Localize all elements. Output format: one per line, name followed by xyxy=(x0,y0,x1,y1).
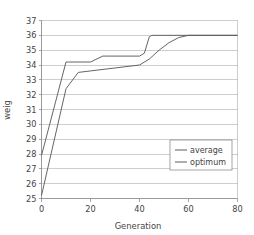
y-tick-label-32: 32 xyxy=(26,90,36,100)
y-tick-label-37: 37 xyxy=(26,16,36,26)
series-line-average xyxy=(42,35,238,195)
y-tick-labels: 25262728293031323334353637 xyxy=(26,16,36,204)
y-tick-label-28: 28 xyxy=(26,149,36,159)
y-tick-label-27: 27 xyxy=(26,164,36,174)
x-tick-label-80: 80 xyxy=(232,204,242,214)
y-tick-label-25: 25 xyxy=(26,194,36,204)
data-series-group xyxy=(42,35,238,195)
y-tick-label-31: 31 xyxy=(26,105,36,115)
x-tick-label-60: 60 xyxy=(183,204,193,214)
y-tick-label-35: 35 xyxy=(26,45,36,55)
x-tick-label-0: 0 xyxy=(39,204,44,214)
y-tick-label-36: 36 xyxy=(26,30,36,40)
legend-label-optimum: optimum xyxy=(190,158,226,167)
y-tick-label-29: 29 xyxy=(26,134,36,144)
x-axis-title: Generation xyxy=(115,221,162,231)
chart-container: 25262728293031323334353637 020406080 ave… xyxy=(0,0,254,235)
line-chart: 25262728293031323334353637 020406080 ave… xyxy=(0,0,254,235)
y-axis-title: weig xyxy=(2,100,12,120)
y-tick-label-26: 26 xyxy=(26,179,36,189)
x-tick-label-40: 40 xyxy=(134,204,144,214)
y-tick-label-30: 30 xyxy=(26,119,36,129)
y-tick-label-33: 33 xyxy=(26,75,36,85)
legend-label-average: average xyxy=(190,146,223,155)
x-tick-label-20: 20 xyxy=(85,204,95,214)
legend: averageoptimum xyxy=(170,140,232,170)
x-tickmarks xyxy=(39,21,238,202)
x-tick-labels: 020406080 xyxy=(39,204,243,214)
series-line-optimum xyxy=(42,35,238,155)
y-tick-label-34: 34 xyxy=(26,60,36,70)
